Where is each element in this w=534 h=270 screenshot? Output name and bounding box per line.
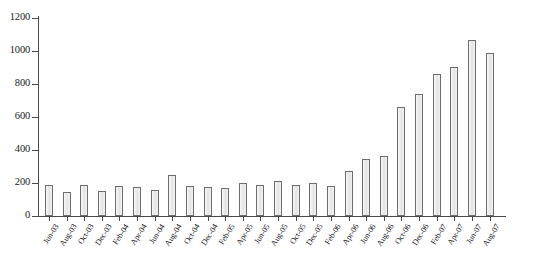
y-tick-label-text: 1200 [0, 12, 30, 23]
x-tick-mark [437, 217, 438, 221]
x-tick-mark [260, 217, 261, 221]
x-tick-mark [84, 217, 85, 221]
bar [256, 185, 264, 216]
bar [345, 171, 353, 216]
x-tick-mark [313, 217, 314, 221]
y-tick-label-text: 0 [0, 210, 30, 221]
y-tick-label: 800 [0, 78, 30, 88]
y-tick-label-text: 1000 [0, 45, 30, 56]
x-tick-mark [296, 217, 297, 221]
x-tick-mark [278, 217, 279, 221]
bar [397, 107, 405, 216]
y-tick-label-text: 600 [0, 111, 30, 122]
bar [115, 186, 123, 216]
bar [309, 183, 317, 216]
y-tick-label-text: 400 [0, 144, 30, 155]
x-tick-mark [137, 217, 138, 221]
x-tick-mark [155, 217, 156, 221]
bar-chart: 020040060080010001200 Jun-03Aug-03Oct-03… [0, 0, 534, 270]
x-tick-mark [49, 217, 50, 221]
y-tick-label: 0 [0, 210, 30, 220]
x-tick-mark [172, 217, 173, 221]
x-tick-mark [67, 217, 68, 221]
x-tick-mark [102, 217, 103, 221]
y-tick-label: 200 [0, 177, 30, 187]
x-tick-mark [490, 217, 491, 221]
x-tick-mark [349, 217, 350, 221]
bar [239, 183, 247, 216]
x-tick-mark [190, 217, 191, 221]
bar [274, 181, 282, 216]
x-tick-mark [119, 217, 120, 221]
x-tick-mark [472, 217, 473, 221]
bar [415, 94, 423, 216]
x-tick-mark [384, 217, 385, 221]
bar [433, 74, 441, 216]
x-tick-mark [225, 217, 226, 221]
bar [45, 185, 53, 216]
bar [486, 53, 494, 216]
y-tick-label-text: 800 [0, 78, 30, 89]
bar [292, 185, 300, 216]
x-tick-mark [366, 217, 367, 221]
y-tick-label: 1000 [0, 45, 30, 55]
bar [98, 191, 106, 216]
x-tick-mark [331, 217, 332, 221]
bar [468, 40, 476, 216]
x-tick-mark [401, 217, 402, 221]
y-tick-label: 600 [0, 111, 30, 121]
bar [380, 156, 388, 216]
bar [204, 187, 212, 216]
x-tick-mark [454, 217, 455, 221]
y-tick-mark [32, 216, 38, 217]
bar [168, 175, 176, 216]
bar [80, 185, 88, 216]
x-axis-line [38, 216, 506, 217]
y-tick-label: 400 [0, 144, 30, 154]
bar [151, 190, 159, 216]
x-tick-mark [208, 217, 209, 221]
x-tick-mark [419, 217, 420, 221]
bar [186, 186, 194, 216]
plot-area [38, 18, 506, 216]
bar [362, 159, 370, 216]
bar [327, 186, 335, 216]
y-tick-label: 1200 [0, 12, 30, 22]
bar [133, 187, 141, 216]
bar [63, 192, 71, 216]
y-tick-label-text: 200 [0, 177, 30, 188]
x-tick-mark [243, 217, 244, 221]
bar [221, 188, 229, 216]
bar [450, 67, 458, 216]
